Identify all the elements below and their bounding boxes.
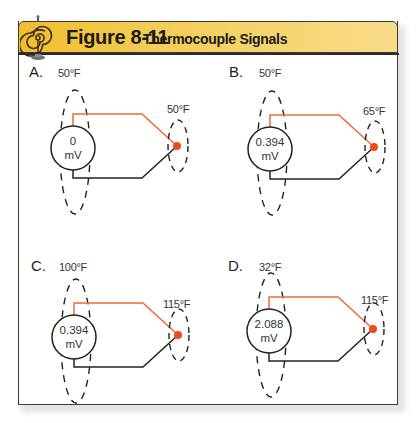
meter-value: 0.394 [248, 135, 292, 149]
panel-a-meter-reading: 0 mV [51, 134, 95, 162]
meter-unit: mV [248, 149, 292, 163]
meter-value: 0 [51, 134, 95, 148]
panel-c-reference-temp: 100°F [59, 261, 87, 273]
panel-a-junction-temp: 50°F [167, 103, 189, 115]
meter-unit: mV [247, 331, 291, 345]
panel-d-meter-reading: 2.088 mV [247, 317, 291, 345]
panel-c-junction-temp: 115°F [163, 298, 190, 310]
meter-value: 2.088 [247, 317, 291, 331]
meter-unit: mV [52, 337, 96, 351]
panel-b-letter: B. [229, 63, 243, 80]
panel-a-letter: A. [29, 63, 43, 80]
panel-c-meter-reading: 0.394 mV [52, 323, 96, 351]
panel-c-letter: C. [31, 257, 46, 274]
panel-d-junction-temp: 115°F [361, 294, 388, 306]
panel-b-reference-temp: 50°F [259, 67, 281, 79]
meter-value: 0.394 [52, 323, 96, 337]
thermocouple-diagrams [0, 0, 417, 423]
panel-b-junction-temp: 65°F [363, 105, 385, 117]
panel-d-reference-temp: 32°F [259, 261, 281, 273]
panel-d-letter: D. [228, 257, 243, 274]
panel-a-reference-temp: 50°F [58, 67, 80, 79]
meter-unit: mV [51, 148, 95, 162]
panel-b-meter-reading: 0.394 mV [248, 135, 292, 163]
